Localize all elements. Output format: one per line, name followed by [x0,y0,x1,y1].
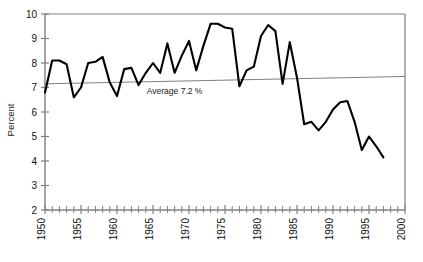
x-tick-label: 1955 [72,218,83,241]
y-tick-label: 4 [31,156,37,167]
y-tick-label: 10 [26,9,38,20]
x-tick-label: 1965 [144,218,155,241]
x-tick-label: 2000 [396,218,407,241]
y-tick-label: 5 [31,131,37,142]
y-tick-label: 7 [31,82,37,93]
x-tick-label: 1995 [360,218,371,241]
y-tick-label: 9 [31,33,37,44]
y-tick-label: 3 [31,180,37,191]
x-tick-label: 1970 [180,218,191,241]
chart-container: 2345678910 19501955196019651970197519801… [0,0,423,262]
line-chart: 2345678910 19501955196019651970197519801… [0,0,423,262]
y-axis-label: Percent [5,103,16,136]
y-tick-label: 2 [31,205,37,216]
x-tick-label: 1950 [36,218,47,241]
x-tick-label: 1980 [252,218,263,241]
x-tick-label: 1975 [216,218,227,241]
y-tick-label: 8 [31,58,37,69]
y-tick-label: 6 [31,107,37,118]
x-tick-label: 1960 [108,218,119,241]
average-annotation-label: Average 7.2 % [147,86,203,96]
x-tick-label: 1985 [288,218,299,241]
x-tick-label: 1990 [324,218,335,241]
